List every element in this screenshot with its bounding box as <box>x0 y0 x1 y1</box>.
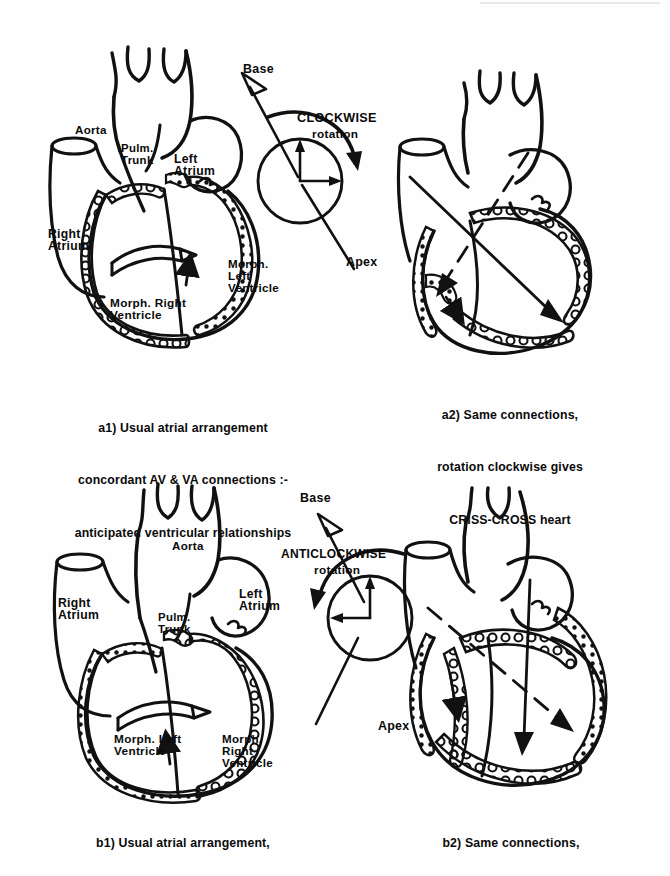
panel-b2-heart-diagram <box>408 488 670 808</box>
label-base-top: Base <box>243 63 274 76</box>
label-base-bottom: Base <box>300 492 331 505</box>
label-a1-right-atrium: Right Atrium <box>48 228 89 253</box>
caption-a2-line1: a2) Same connections, <box>360 407 660 424</box>
clockwise-rotation-indicator <box>228 55 398 315</box>
caption-b1: b1) Usual atrial arrangement, discordant… <box>18 800 348 876</box>
label-anticlockwise-heading: ANTICLOCKWISE <box>281 548 386 560</box>
label-b1-left-atrium: Left Atrium <box>239 588 280 613</box>
label-b1-morph-left-ventricle: Morph. Left Ventricle <box>114 733 182 757</box>
label-apex-top: Apex <box>346 256 378 269</box>
caption-a1-line1: a1) Usual atrial arrangement <box>18 420 348 437</box>
label-b1-right-atrium: Right Atrium <box>58 597 99 622</box>
label-b1-morph-right-ventricle: Morph. Right Ventricle <box>222 733 273 768</box>
label-a1-aorta: Aorta <box>75 124 107 136</box>
caption-b1-line1: b1) Usual atrial arrangement, <box>18 835 348 852</box>
panel-a2-heart-diagram <box>400 35 670 365</box>
figure-canvas: Aorta Pulm. Trunk Left Atrium Right Atri… <box>0 0 670 876</box>
label-b1-aorta: Aorta <box>172 540 204 552</box>
label-clockwise-subheading: rotation <box>312 128 358 140</box>
caption-a2-line2: rotation clockwise gives <box>360 459 660 476</box>
label-a1-pulm-trunk: Pulm. Trunk <box>121 143 154 166</box>
caption-b2-line1: b2) Same connections, <box>358 835 664 852</box>
label-apex-bottom: Apex <box>378 720 410 733</box>
label-clockwise-heading: CLOCKWISE <box>297 112 377 125</box>
label-b1-pulm-trunk: Pulm. Trunk <box>158 612 191 635</box>
label-anticlockwise-subheading: rotation <box>314 564 360 576</box>
caption-b2: b2) Same connections, rotation countercl… <box>358 800 664 876</box>
label-a1-morph-right-ventricle: Morph. Right Ventricle <box>110 297 186 321</box>
label-a1-left-atrium: Left Atrium <box>174 153 215 178</box>
scan-artifact-line <box>480 2 660 4</box>
